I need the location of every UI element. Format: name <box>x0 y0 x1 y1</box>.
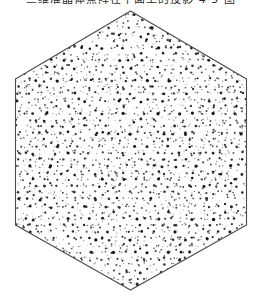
quasiperiodic-dot-pattern <box>10 6 251 293</box>
hexagon-outline <box>16 11 247 290</box>
quasicrystal-hexagon-figure <box>0 0 262 303</box>
scanned-figure-page: 三维准晶体点阵在平面上的投影 4·5 图 <box>0 0 262 303</box>
